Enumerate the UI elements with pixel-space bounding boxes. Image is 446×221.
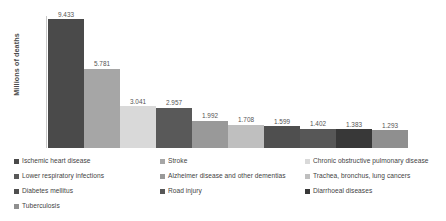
legend-item[interactable]: Chronic obstructive pulmonary disease — [305, 154, 446, 169]
bar-value-label: 1.708 — [228, 116, 264, 123]
bar-group: 1.992 — [192, 0, 228, 148]
legend-swatch-icon — [14, 159, 19, 164]
legend-column-3: Chronic obstructive pulmonary diseaseTra… — [305, 154, 446, 199]
bar — [264, 126, 300, 148]
legend-label: Ischemic heart disease — [22, 158, 91, 165]
bar-value-label: 3.041 — [120, 98, 156, 105]
bar-value-label: 9.433 — [48, 11, 84, 18]
legend-item[interactable]: Diabetes mellitus — [14, 184, 162, 199]
legend-label: Stroke — [168, 158, 187, 165]
chart-legend: Ischemic heart diseaseLower respiratory … — [0, 154, 446, 221]
bar-series: 9.4335.7813.0412.9571.9921.7081.5991.402… — [48, 0, 408, 148]
bar — [300, 129, 336, 148]
bar — [372, 130, 408, 148]
legend-item[interactable]: Stroke — [160, 154, 310, 169]
bar-value-label: 1.402 — [300, 120, 336, 127]
legend-label: Road injury — [168, 188, 202, 195]
legend-item[interactable]: Diarrhoeal diseases — [305, 184, 446, 199]
legend-label: Trachea, bronchus, lung cancers — [313, 173, 410, 180]
legend-swatch-icon — [160, 174, 165, 179]
y-axis-line — [46, 16, 47, 148]
bar-value-label: 1.293 — [372, 122, 408, 129]
bar — [228, 125, 264, 148]
bar-group: 1.293 — [372, 0, 408, 148]
bar-group: 2.957 — [156, 0, 192, 148]
bar-group: 1.402 — [300, 0, 336, 148]
bar — [120, 106, 156, 148]
bar — [192, 121, 228, 148]
bar-group: 3.041 — [120, 0, 156, 148]
legend-swatch-icon — [305, 189, 310, 194]
bar-chart: Millions of deaths 9.4335.7813.0412.9571… — [0, 0, 446, 221]
bar — [84, 69, 120, 148]
legend-swatch-icon — [14, 174, 19, 179]
bar — [156, 108, 192, 148]
bar-group: 9.433 — [48, 0, 84, 148]
legend-item[interactable]: Road injury — [160, 184, 310, 199]
bar-group: 5.781 — [84, 0, 120, 148]
legend-label: Alzheimer disease and other dementias — [168, 173, 286, 180]
legend-swatch-icon — [160, 189, 165, 194]
legend-item[interactable]: Lower respiratory infections — [14, 169, 162, 184]
legend-label: Diarrhoeal diseases — [313, 188, 372, 195]
bar-value-label: 2.957 — [156, 99, 192, 106]
legend-swatch-icon — [305, 174, 310, 179]
plot-area: Millions of deaths 9.4335.7813.0412.9571… — [0, 0, 446, 152]
legend-swatch-icon — [14, 204, 19, 209]
bar-group: 1.708 — [228, 0, 264, 148]
bar-value-label: 1.599 — [264, 118, 300, 125]
legend-label: Lower respiratory infections — [22, 173, 104, 180]
legend-label: Chronic obstructive pulmonary disease — [313, 158, 428, 165]
legend-swatch-icon — [14, 189, 19, 194]
legend-label: Tuberculosis — [22, 203, 60, 210]
legend-item[interactable]: Alzheimer disease and other dementias — [160, 169, 310, 184]
legend-swatch-icon — [305, 159, 310, 164]
bar — [48, 19, 84, 148]
legend-label: Diabetes mellitus — [22, 188, 73, 195]
bar-value-label: 1.992 — [192, 112, 228, 119]
bar — [336, 129, 372, 148]
legend-item[interactable]: Tuberculosis — [14, 199, 162, 214]
y-axis-title: Millions of deaths — [12, 15, 21, 115]
bar-value-label: 5.781 — [84, 60, 120, 67]
legend-swatch-icon — [160, 159, 165, 164]
legend-column-1: Ischemic heart diseaseLower respiratory … — [14, 154, 162, 214]
bar-group: 1.383 — [336, 0, 372, 148]
bar-value-label: 1.383 — [336, 121, 372, 128]
legend-column-2: StrokeAlzheimer disease and other dement… — [160, 154, 310, 199]
legend-item[interactable]: Trachea, bronchus, lung cancers — [305, 169, 446, 184]
bar-group: 1.599 — [264, 0, 300, 148]
legend-item[interactable]: Ischemic heart disease — [14, 154, 162, 169]
